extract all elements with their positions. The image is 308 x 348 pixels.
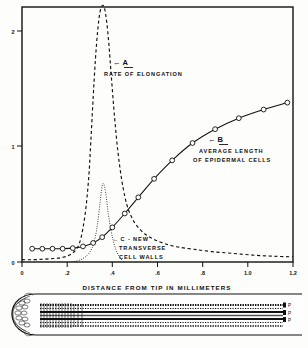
x-tick-label-6: 1.2 [289, 270, 297, 276]
x-tick-label-4: .8 [200, 270, 205, 276]
annotation-c-arrow: ← [113, 236, 120, 242]
data-point-6 [91, 241, 96, 246]
data-point-4 [70, 246, 75, 251]
x-tick-label-2: .4 [110, 270, 116, 276]
curve-a-rate-of-elongation [22, 5, 293, 259]
x-axis-ticks [22, 262, 293, 267]
data-point-15 [236, 116, 241, 121]
curve-c-new-transverse-cell-walls [72, 183, 124, 262]
data-point-12 [170, 158, 175, 163]
annotation-c-line-2: CELL WALLS [119, 254, 164, 260]
annotation-a-line-1: RATE OF ELONGATION [104, 71, 183, 77]
data-point-10 [136, 195, 141, 200]
annotation-a-arrow: ← [113, 58, 121, 67]
y-tick-label-1: 1 [11, 144, 14, 150]
figure-container: 0 1 2 0 .2 .4 .6 .8 1.0 1.2 [0, 0, 308, 348]
annotation-c-letter: C - NEW [121, 236, 149, 242]
annotation-a: ←A RATE OF ELONGATION [104, 58, 183, 77]
series-group [22, 5, 293, 262]
data-point-17 [285, 100, 290, 105]
x-tick-label-1: .2 [65, 270, 70, 276]
annotation-b-arrow-letter: ←B [208, 135, 224, 144]
data-point-2 [50, 246, 55, 251]
data-point-9 [122, 211, 127, 216]
label-p3: P [288, 318, 291, 323]
data-point-1 [40, 246, 45, 251]
curve-b-average-length-epidermal-cells [32, 103, 287, 249]
label-p2: P [288, 311, 291, 316]
data-point-13 [190, 141, 195, 146]
y-tick-label-2: 2 [11, 29, 14, 35]
data-point-3 [60, 246, 65, 251]
root-tip-diagram: P P P [0, 288, 308, 348]
plot-frame [22, 7, 293, 262]
x-tick-label-0: 0 [20, 270, 23, 276]
root-outline [12, 294, 302, 335]
label-p1: P [288, 303, 291, 308]
annotation-b-letter: B [218, 135, 224, 144]
x-tick-label-3: .6 [155, 270, 160, 276]
data-point-11 [152, 176, 157, 181]
chart-svg: 0 1 2 0 .2 .4 .6 .8 1.0 1.2 [0, 0, 308, 300]
y-tick-label-0: 0 [11, 260, 14, 266]
annotation-c-arrow-letter: ←C - NEW [113, 236, 149, 242]
data-point-14 [213, 127, 218, 132]
annotation-a-letter: A [123, 58, 129, 67]
x-tick-label-5: 1.0 [244, 270, 252, 276]
data-point-16 [261, 107, 266, 112]
root-diagram-svg: P P P [0, 288, 308, 348]
annotation-c: ←C - NEW TRANSVERSE CELL WALLS [113, 236, 166, 260]
annotation-b: ←B AVERAGE LENGTH OF EPIDERMAL CELLS [193, 135, 271, 163]
annotation-a-arrow-letter: ←A [113, 58, 129, 67]
data-point-7 [100, 235, 105, 240]
annotation-b-arrow: ← [208, 135, 216, 144]
chart-plot-area: 0 1 2 0 .2 .4 .6 .8 1.0 1.2 [0, 0, 308, 300]
annotation-b-line-1: AVERAGE LENGTH [199, 148, 263, 154]
annotation-c-line-1: TRANSVERSE [119, 245, 166, 251]
data-point-5 [81, 244, 86, 249]
y-axis-ticks [17, 31, 22, 262]
data-point-8 [110, 225, 115, 230]
data-point-0 [30, 246, 35, 251]
annotation-b-line-2: OF EPIDERMAL CELLS [193, 157, 271, 163]
curve-b-markers [30, 100, 290, 251]
root-end-markers: P P P [283, 303, 291, 323]
